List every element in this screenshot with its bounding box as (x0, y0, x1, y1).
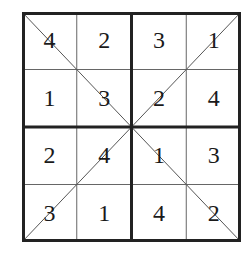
cell-r3c3[interactable]: 1 (132, 127, 187, 185)
cell-r2c2[interactable]: 3 (77, 70, 132, 128)
cell-r4c1[interactable]: 3 (22, 185, 77, 243)
cell-r1c1[interactable]: 4 (22, 12, 77, 70)
cell-r4c3[interactable]: 4 (132, 185, 187, 243)
sudoku-board: 4 2 3 1 1 3 2 4 2 4 1 3 3 1 4 2 (22, 12, 241, 242)
cell-r1c2[interactable]: 2 (77, 12, 132, 70)
cell-r2c3[interactable]: 2 (132, 70, 187, 128)
cell-r2c1[interactable]: 1 (22, 70, 77, 128)
cell-r4c2[interactable]: 1 (77, 185, 132, 243)
cell-r1c3[interactable]: 3 (132, 12, 187, 70)
cell-r3c1[interactable]: 2 (22, 127, 77, 185)
cell-grid: 4 2 3 1 1 3 2 4 2 4 1 3 3 1 4 2 (22, 12, 241, 242)
cell-r3c4[interactable]: 3 (186, 127, 241, 185)
cell-r3c2[interactable]: 4 (77, 127, 132, 185)
cell-r4c4[interactable]: 2 (186, 185, 241, 243)
cell-r2c4[interactable]: 4 (186, 70, 241, 128)
cell-r1c4[interactable]: 1 (186, 12, 241, 70)
